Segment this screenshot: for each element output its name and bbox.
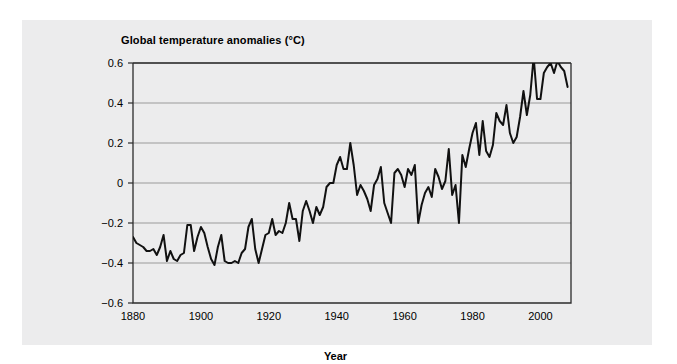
figure-card: Global temperature anomalies (°C) Year bbox=[22, 20, 652, 345]
x-axis-title: Year bbox=[22, 350, 677, 362]
x-axis-title-text: Year bbox=[324, 350, 347, 362]
chart-title: Global temperature anomalies (°C) bbox=[121, 34, 305, 46]
